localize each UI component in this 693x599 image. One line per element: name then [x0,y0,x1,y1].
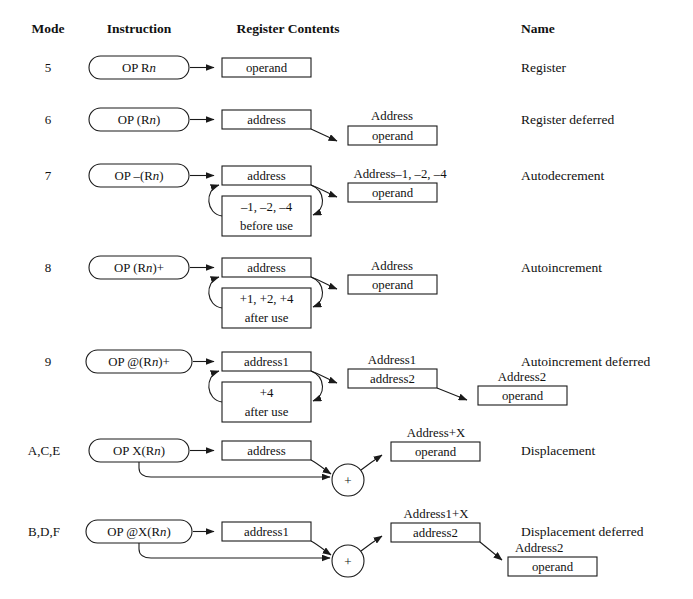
mode-name: Autoincrement [521,260,602,275]
memory1-box-label: address2 [370,372,415,386]
header-register-contents: Register Contents [237,21,340,36]
memory-box-label: operand [415,445,457,459]
header-instruction: Instruction [107,21,172,36]
register-contents-label: address [247,261,285,275]
memory2-address-caption: Address2 [498,370,546,384]
memory-address-caption: Address+X [407,426,466,440]
memory1-box-label: address2 [413,526,458,540]
page-background [0,0,693,599]
mode-label: 6 [45,112,52,127]
header-mode: Mode [32,21,65,36]
memory2-box-label: operand [502,389,544,403]
adder-plus-label: + [344,554,351,569]
instruction-label: OP @(Rn)+ [108,355,170,369]
addressing-modes-figure: Mode Instruction Register Contents Name … [0,0,693,599]
adder-plus-label: + [344,473,351,488]
modifier-timing-label: after use [245,311,289,325]
mode-label: 8 [45,260,52,275]
instruction-label: OP Rn [122,61,156,75]
memory1-address-caption: Address1+X [404,507,470,521]
modifier-timing-label: after use [245,405,289,419]
mode-name: Displacement [521,443,595,458]
memory1-address-caption: Address1 [368,353,416,367]
mode-name: Autodecrement [521,168,604,183]
modifier-amount-label: +4 [260,386,274,400]
memory-address-caption: Address–1, –2, –4 [353,167,447,181]
instruction-label: OP (Rn)+ [114,261,164,275]
memory-box-label: operand [372,186,414,200]
mode-label: 7 [45,168,52,183]
mode-label: A,C,E [28,443,61,458]
mode-name: Displacement deferred [521,524,644,539]
mode-label: B,D,F [28,524,60,539]
mode-name: Register [521,60,566,75]
instruction-label: OP –(Rn) [115,169,164,183]
register-contents-label: address [247,169,285,183]
mode-label: 9 [45,354,52,369]
modifier-amount-label: –1, –2, –4 [240,200,293,214]
mode-label: 5 [45,60,52,75]
instruction-label: OP (Rn) [118,113,161,127]
addressing-modes-diagram: Mode Instruction Register Contents Name … [0,0,693,599]
instruction-label: OP @X(Rn) [107,525,171,539]
header-name: Name [521,21,555,36]
memory2-box-label: operand [532,560,574,574]
memory2-address-caption: Address2 [515,541,563,555]
register-contents-label: address1 [244,355,289,369]
modifier-amount-label: +1, +2, +4 [240,292,294,306]
register-contents-label: address [247,444,285,458]
modifier-timing-label: before use [240,219,293,233]
memory-address-caption: Address [371,259,413,273]
instruction-label: OP X(Rn) [113,444,165,458]
register-contents-label: operand [246,61,288,75]
register-contents-label: address1 [244,525,289,539]
memory-address-caption: Address [371,109,413,123]
memory-box-label: operand [372,129,414,143]
mode-name: Autoincrement deferred [521,354,651,369]
memory-box-label: operand [372,278,414,292]
mode-name: Register deferred [521,112,615,127]
register-contents-label: address [247,113,285,127]
